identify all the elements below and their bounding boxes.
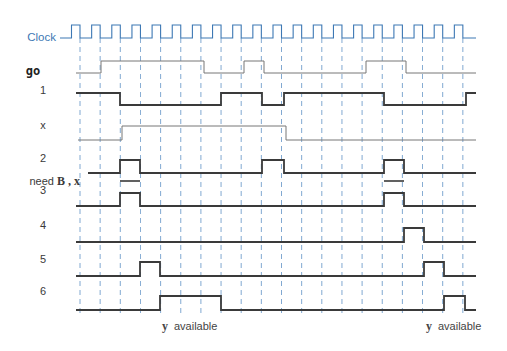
signal-go-trace <box>76 61 476 73</box>
signal-x-trace <box>78 126 476 140</box>
signal-s5-trace <box>76 262 476 276</box>
signal-waveforms <box>76 61 476 310</box>
available-text-1: available <box>174 320 217 332</box>
signal-s2-label: 2 <box>30 152 56 164</box>
signal-s2-trace <box>88 160 476 173</box>
need-bx-label: need B , x <box>2 174 80 189</box>
y-available-note-2: yavailable <box>426 319 481 334</box>
signal-s1-label: 1 <box>30 84 56 96</box>
signal-s3-trace <box>76 193 476 206</box>
available-text-2: available <box>438 320 481 332</box>
y-var-1: y <box>162 319 168 333</box>
signal-s5-label: 5 <box>30 253 56 265</box>
signal-s4-label: 4 <box>30 219 56 231</box>
signal-x-label: x <box>30 119 56 131</box>
clock-waveform <box>60 25 476 38</box>
clock-trace <box>60 25 476 38</box>
clock-label: Clock <box>14 31 56 43</box>
need-label-prefix: need <box>29 175 53 187</box>
y-var-2: y <box>426 319 432 333</box>
clock-grid-dashed-lines <box>80 38 463 316</box>
signal-go-label: go <box>20 64 46 78</box>
signal-s4-trace <box>76 228 476 242</box>
signal-s6-trace <box>76 296 476 310</box>
signal-s1-trace <box>76 93 476 105</box>
signal-s6-label: 6 <box>30 285 56 297</box>
y-available-note-1: yavailable <box>162 319 217 334</box>
need-label-vars: B , x <box>57 174 80 188</box>
